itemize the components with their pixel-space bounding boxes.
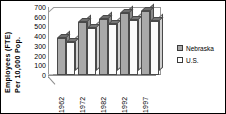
plot-floor-front-edge	[48, 75, 156, 76]
y-tick-label: 100	[27, 62, 46, 69]
bar-front-face	[150, 21, 159, 75]
chart-legend: Nebraska U.S.	[177, 44, 225, 68]
y-tick-label: 400	[27, 33, 46, 40]
x-tick-label-1972: 1972	[79, 83, 86, 113]
y-tick-label: 600	[27, 13, 46, 20]
bar-front-face	[108, 24, 117, 75]
bar-front-face	[99, 19, 108, 75]
bar-front-face	[120, 13, 129, 75]
y-axis-title-line-2: Per 10,000 Pop.	[14, 13, 22, 93]
y-tick-label: 0	[27, 72, 46, 79]
x-tick-label-1982: 1982	[100, 83, 107, 113]
bar-us-1982	[108, 24, 117, 75]
y-tick-label: 200	[27, 52, 46, 59]
bar-group-1982	[99, 7, 119, 75]
bar-group-1992	[120, 7, 140, 75]
bar-us-1997	[150, 21, 159, 75]
y-tick-label: 700	[27, 4, 46, 11]
bar-front-face	[66, 42, 75, 75]
bar-group-1962	[57, 7, 77, 75]
bar-nebraska-1992	[120, 13, 129, 75]
plot-floor-side-edge	[48, 75, 57, 85]
bar-front-face	[87, 28, 96, 75]
legend-label-us: U.S.	[186, 57, 199, 64]
bar-group-1972	[78, 7, 98, 75]
bar-front-face	[57, 38, 66, 75]
bar-nebraska-1962	[57, 38, 66, 75]
bar-nebraska-1972	[78, 22, 87, 75]
bar-front-face	[78, 22, 87, 75]
bar-group-1997	[141, 7, 161, 75]
legend-label-nebraska: Nebraska	[186, 45, 214, 52]
y-axis-tick-labels: 700 600 500 400 300 200 100 0	[27, 7, 46, 79]
legend-swatch-icon	[177, 57, 183, 63]
bar-us-1962	[66, 42, 75, 75]
legend-item-nebraska: Nebraska	[177, 44, 225, 52]
x-tick-label-1992: 1992	[121, 83, 128, 113]
bars-layer	[53, 7, 161, 75]
bar-us-1992	[129, 20, 138, 75]
bar-nebraska-1982	[99, 19, 108, 75]
y-tick-label: 500	[27, 23, 46, 30]
legend-swatch-icon	[177, 45, 183, 51]
legend-item-us: U.S.	[177, 56, 225, 64]
y-axis-title-line-1: Employees (FTE)	[4, 13, 12, 93]
bar-side-face	[159, 13, 163, 71]
bar-us-1972	[87, 28, 96, 75]
x-tick-label-1962: 1962	[58, 83, 65, 113]
y-axis-title: Employees (FTE) Per 10,000 Pop.	[3, 11, 29, 93]
x-tick-label-1997: 1997	[142, 83, 149, 113]
y-tick-label: 300	[27, 42, 46, 49]
x-axis-tick-labels: 1962 1972 1982 1992 1997	[48, 85, 161, 114]
bar-front-face	[129, 20, 138, 75]
plot-area	[48, 7, 161, 85]
chart-container: Employees (FTE) Per 10,000 Pop. 700 600 …	[0, 0, 226, 114]
